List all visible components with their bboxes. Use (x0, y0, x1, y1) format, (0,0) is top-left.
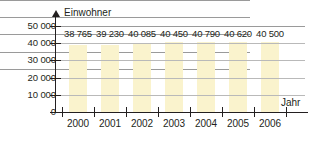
y-axis-title: Einwohner (64, 7, 111, 19)
gridline-top-50000 (55, 26, 305, 27)
gridline-50000 (0, 0, 250, 1)
x-axis-title: Jahr (281, 97, 300, 109)
x-axis-line (55, 112, 308, 113)
x-tick-label-2006: 2006 (250, 118, 290, 130)
gridline-top-10000 (55, 95, 305, 96)
y-tick-label-10000: 10 000 (0, 90, 56, 100)
x-tick-3 (158, 107, 159, 117)
x-tick-7 (286, 107, 287, 117)
y-tick-label-30000: 30 000 (0, 55, 56, 65)
gridline-top-30000 (55, 60, 305, 61)
x-tick-4 (190, 107, 191, 117)
bar-2000 (69, 45, 87, 112)
y-tick-label-40000: 40 000 (0, 38, 56, 48)
value-label-2006: 40 500 (248, 28, 292, 39)
x-tick-5 (222, 107, 223, 117)
gridline-top-20000 (55, 78, 305, 79)
bar-chart: Einwohner Jahr 010 00020 00030 00040 000… (0, 0, 314, 145)
y-tick-label-50000: 50 000 (0, 21, 56, 31)
x-tick-0 (62, 107, 63, 117)
x-tick-1 (94, 107, 95, 117)
y-tick-label-20000: 20 000 (0, 73, 56, 83)
gridline-40000 (0, 17, 250, 18)
y-tick-label-0: 0 (0, 107, 56, 117)
x-tick-2 (126, 107, 127, 117)
gridline-top-40000 (55, 43, 305, 44)
x-tick-6 (254, 107, 255, 117)
